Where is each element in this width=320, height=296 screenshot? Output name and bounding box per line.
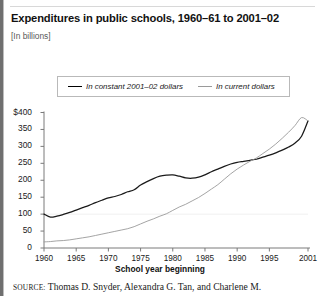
- plot-area: [0, 0, 320, 296]
- y-tick-label: 50: [6, 226, 32, 235]
- source-text: Thomas D. Snyder, Alexandra G. Tan, and …: [46, 281, 261, 292]
- x-tick-label: 1960: [29, 254, 59, 263]
- x-tick-label: 1990: [222, 254, 252, 263]
- y-tick-label: 300: [6, 141, 32, 150]
- y-tick-label: 150: [6, 192, 32, 201]
- x-tick-label: 1970: [93, 254, 123, 263]
- x-tick-label: 1985: [190, 254, 220, 263]
- y-tick-label: 100: [6, 209, 32, 218]
- y-tick-label: 250: [6, 158, 32, 167]
- y-tick-label: $400: [6, 108, 32, 117]
- x-tick-label: 2001: [293, 254, 320, 263]
- x-axis-title: School year beginning: [0, 264, 320, 274]
- figure-container: Expenditures in public schools, 1960–61 …: [0, 0, 320, 296]
- series-line-constant-dollars: [44, 121, 308, 217]
- x-tick-label: 1975: [126, 254, 156, 263]
- x-tick-label: 1995: [254, 254, 284, 263]
- x-tick-label: 1980: [158, 254, 188, 263]
- x-tick-label: 1965: [61, 254, 91, 263]
- y-tick-label: 200: [6, 175, 32, 184]
- source-keyword: SOURCE:: [13, 283, 46, 292]
- y-tick-label: 350: [6, 124, 32, 133]
- y-tick-label: 0: [6, 243, 32, 252]
- source-note: SOURCE: Thomas D. Snyder, Alexandra G. T…: [13, 281, 318, 292]
- series-line-current-dollars: [44, 117, 308, 241]
